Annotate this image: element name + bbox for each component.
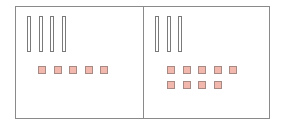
ones-unit (167, 81, 175, 89)
ones-unit (198, 66, 206, 74)
tens-rod (62, 16, 66, 52)
tens-rod (27, 16, 31, 52)
ones-unit (229, 66, 237, 74)
ones-unit (167, 66, 175, 74)
tens-rod (167, 16, 171, 52)
panel-divider (143, 6, 144, 119)
ones-unit (214, 81, 222, 89)
ones-unit (100, 66, 108, 74)
ones-unit (85, 66, 93, 74)
ones-unit (38, 66, 46, 74)
ones-unit (214, 66, 222, 74)
ones-unit (69, 66, 77, 74)
ones-unit (54, 66, 62, 74)
tens-rod (50, 16, 54, 52)
ones-unit (198, 81, 206, 89)
ones-unit (183, 81, 191, 89)
ones-unit (183, 66, 191, 74)
tens-rod (155, 16, 159, 52)
tens-rod (178, 16, 182, 52)
tens-rod (39, 16, 43, 52)
